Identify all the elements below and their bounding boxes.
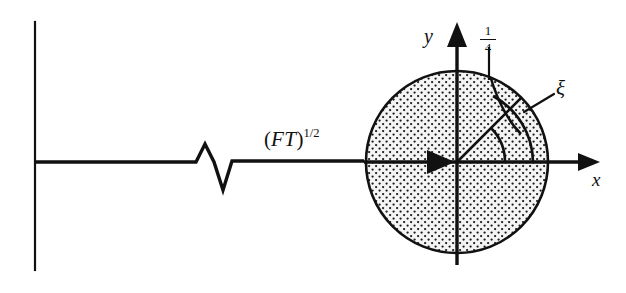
x-axis-label: x bbox=[592, 170, 600, 189]
waveform-baseline bbox=[35, 144, 364, 190]
figure-canvas: (FT)1/2 y x ξ 1 4 bbox=[0, 0, 626, 293]
xi-leader-line bbox=[524, 94, 554, 112]
transform-close-paren: ) bbox=[297, 127, 304, 151]
transform-operator-label: (FT)1/2 bbox=[264, 128, 320, 150]
transform-open-paren: ( bbox=[264, 127, 271, 151]
quarter-fraction-label: 1 4 bbox=[479, 24, 497, 54]
fraction-denominator: 4 bbox=[479, 41, 497, 55]
transform-exponent: 1/2 bbox=[304, 126, 320, 140]
y-axis-arrowhead bbox=[447, 22, 467, 47]
fraction-numerator: 1 bbox=[479, 24, 497, 38]
y-axis-label: y bbox=[424, 26, 433, 46]
transform-name: FT bbox=[271, 127, 297, 151]
angle-xi-label: ξ bbox=[556, 78, 565, 99]
